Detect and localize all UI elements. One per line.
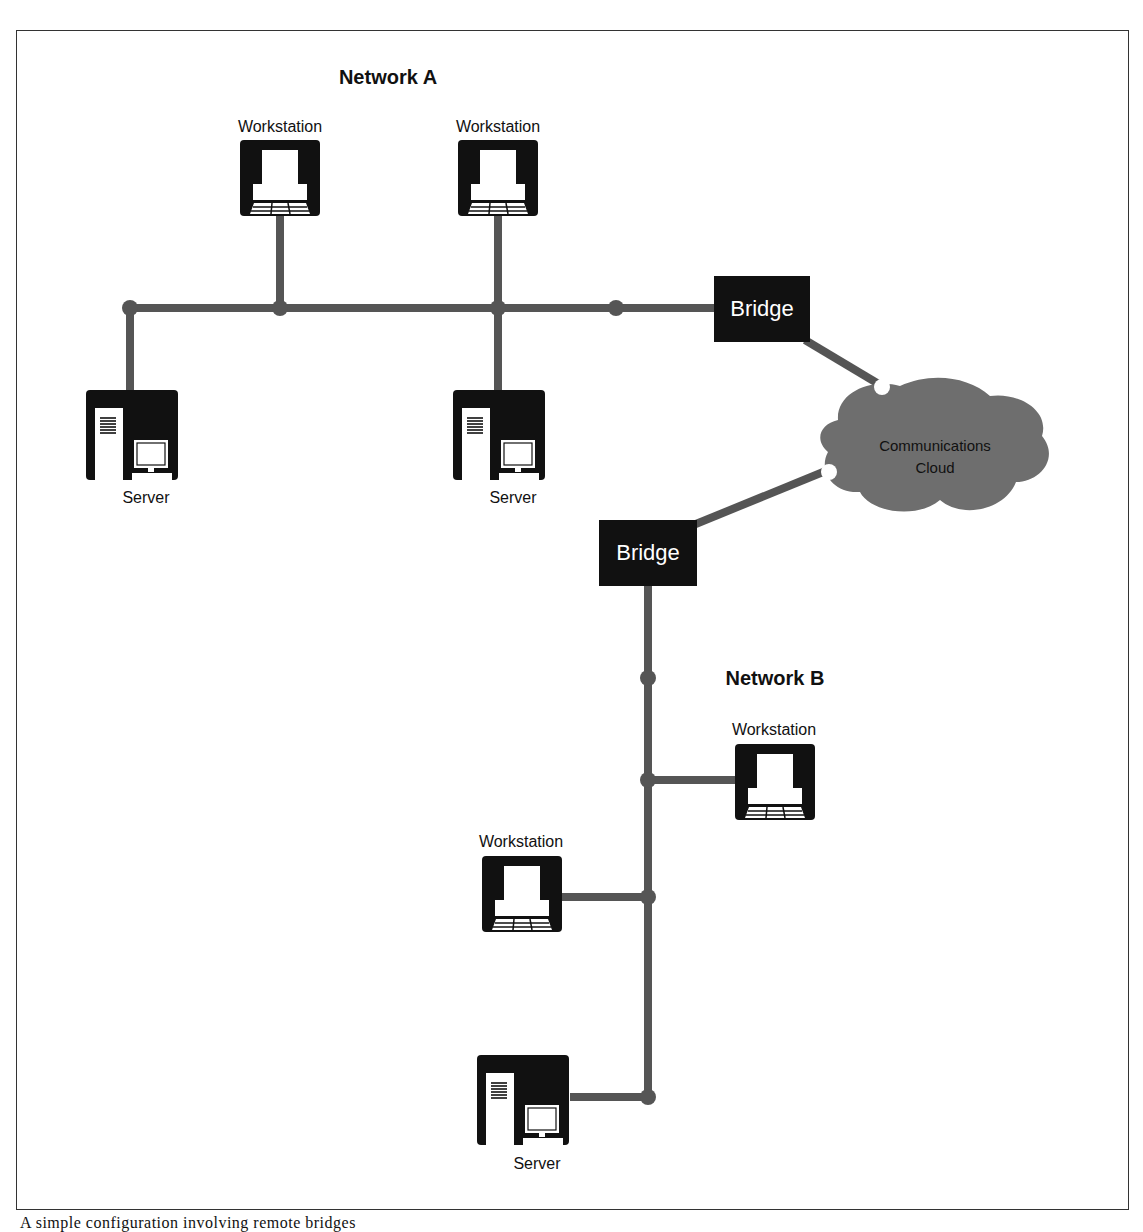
workstation-b2[interactable]: Workstation <box>479 833 563 932</box>
server-label: Server <box>122 489 170 506</box>
workstation-label: Workstation <box>238 118 322 135</box>
server-b1[interactable]: Server <box>477 1055 569 1172</box>
bridge-label: Bridge <box>730 296 794 321</box>
cloud-label-line2: Cloud <box>915 459 954 476</box>
workstation-icon <box>735 744 815 820</box>
network-a-title: Network A <box>339 66 437 88</box>
workstation-a1[interactable]: Workstation <box>238 118 322 216</box>
bridge-label: Bridge <box>616 540 680 565</box>
workstation-icon <box>482 856 562 932</box>
junction-dots <box>122 300 656 1105</box>
server-a1[interactable]: Server <box>86 390 178 506</box>
bridge-a[interactable]: Bridge <box>714 276 810 342</box>
network-a-links <box>130 215 882 1097</box>
workstation-label: Workstation <box>479 833 563 850</box>
server-label: Server <box>513 1155 561 1172</box>
workstation-label: Workstation <box>456 118 540 135</box>
workstation-icon <box>240 140 320 216</box>
server-icon <box>477 1055 569 1145</box>
workstation-icon <box>458 140 538 216</box>
server-icon <box>86 390 178 480</box>
workstation-a2[interactable]: Workstation <box>456 118 540 216</box>
workstation-label: Workstation <box>732 721 816 738</box>
cloud-label-line1: Communications <box>879 437 991 454</box>
server-label: Server <box>489 489 537 506</box>
server-icon <box>453 390 545 480</box>
server-a2[interactable]: Server <box>453 390 545 506</box>
bridge-b[interactable]: Bridge <box>599 520 697 586</box>
communications-cloud[interactable]: Communications Cloud <box>820 378 1049 512</box>
workstation-b1[interactable]: Workstation <box>732 721 816 820</box>
network-b-title: Network B <box>726 667 825 689</box>
figure-caption: A simple configuration involving remote … <box>20 1214 356 1232</box>
